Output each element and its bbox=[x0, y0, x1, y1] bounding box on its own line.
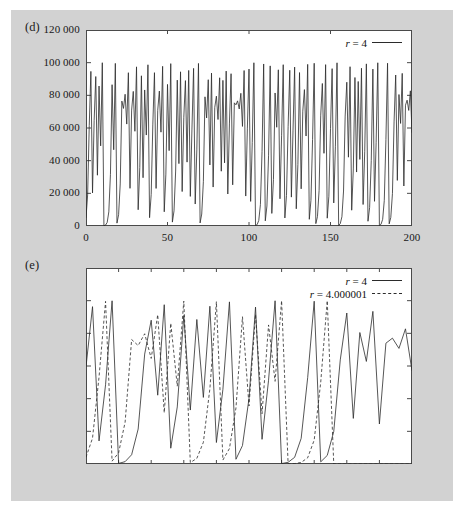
y-tick-label: 0 bbox=[10, 219, 80, 231]
legend-key-dashed bbox=[372, 293, 402, 294]
x-tick-label: 200 bbox=[390, 231, 434, 243]
legend-label: r = 4 bbox=[346, 37, 368, 49]
y-tick-label: 40 000 bbox=[10, 154, 80, 166]
legend-label: r = 4 bbox=[346, 275, 368, 287]
legend-key-solid bbox=[372, 280, 402, 281]
x-tick-label: 150 bbox=[309, 231, 353, 243]
legend-key-solid bbox=[372, 42, 402, 43]
panel-d-canvas bbox=[86, 30, 412, 226]
legend-entry: r = 4 bbox=[232, 274, 402, 287]
panel-d: (d) 020 00040 00060 00080 000100 000120 … bbox=[0, 0, 464, 250]
legend-label: r = 4.000001 bbox=[310, 288, 367, 300]
y-tick-label: 60 000 bbox=[10, 121, 80, 133]
panel-e-legend: r = 4 r = 4.000001 bbox=[232, 274, 402, 300]
panel-e-label: (e) bbox=[25, 258, 39, 273]
x-tick-label: 100 bbox=[227, 231, 271, 243]
y-tick-label: 120 000 bbox=[10, 23, 80, 35]
panel-d-legend: r = 4 bbox=[252, 36, 402, 49]
y-tick-label: 100 000 bbox=[10, 56, 80, 68]
legend-entry: r = 4.000001 bbox=[232, 287, 402, 300]
x-tick-label: 0 bbox=[64, 231, 108, 243]
legend-entry: r = 4 bbox=[252, 36, 402, 49]
y-tick-label: 80 000 bbox=[10, 88, 80, 100]
figure-page: (d) 020 00040 00060 00080 000100 000120 … bbox=[0, 0, 464, 513]
x-tick-label: 50 bbox=[146, 231, 190, 243]
panel-e: (e) 020 00040 00060 00080 000100 000120 … bbox=[0, 250, 464, 513]
y-tick-label: 20 000 bbox=[10, 186, 80, 198]
